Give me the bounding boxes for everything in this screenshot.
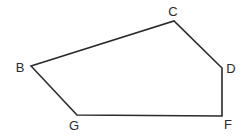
vertex-label-g: G bbox=[69, 118, 79, 133]
pentagon-shape bbox=[31, 21, 222, 116]
vertex-label-b: B bbox=[16, 60, 25, 75]
vertex-label-d: D bbox=[226, 61, 235, 76]
vertex-label-c: C bbox=[168, 4, 177, 19]
pentagon-diagram: B C D F G bbox=[0, 0, 247, 136]
vertex-label-f: F bbox=[224, 117, 232, 132]
